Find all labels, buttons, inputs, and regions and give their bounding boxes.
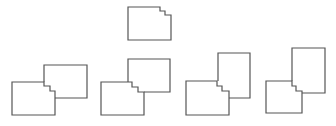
option-3 — [186, 53, 250, 115]
option-2-left-shape — [101, 82, 144, 115]
option-4 — [266, 48, 325, 113]
option-4-left-shape — [266, 81, 302, 113]
option-3-left-shape — [186, 81, 229, 115]
option-2 — [101, 59, 170, 115]
reference-shape — [128, 7, 171, 40]
option-1 — [12, 65, 87, 115]
option-4-right-shape — [292, 48, 325, 93]
option-1-left-shape — [12, 82, 55, 115]
puzzle-diagram — [0, 0, 336, 126]
option-1-right-shape — [44, 65, 87, 98]
